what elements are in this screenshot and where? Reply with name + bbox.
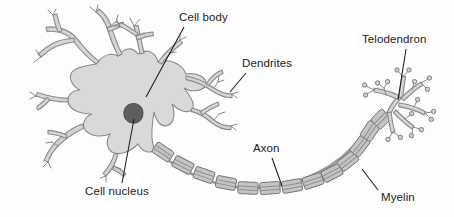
- terminal-button: [409, 133, 413, 137]
- dendrite-branch: [206, 70, 223, 85]
- terminal-button: [431, 109, 435, 113]
- terminal-button: [363, 93, 367, 97]
- label-cell-nucleus: Cell nucleus: [85, 185, 149, 197]
- terminal-button: [395, 68, 399, 72]
- telodendron-twig: [389, 132, 399, 138]
- myelin-segment: [171, 155, 194, 175]
- myelin-segment: [193, 166, 216, 184]
- soma-group: [68, 49, 206, 154]
- terminal-button: [425, 87, 429, 91]
- label-cell-body: Cell body: [179, 11, 228, 23]
- dendrite-branch: [200, 102, 219, 115]
- telodendron-branch: [374, 88, 399, 99]
- telodendron-branch: [387, 112, 395, 133]
- terminal-button: [362, 83, 366, 87]
- label-myelin: Myelin: [381, 191, 415, 203]
- terminal-button: [409, 111, 413, 115]
- neuron-diagram: .soma-fill { fill:#d9d9d9; stroke:#8a8a8…: [0, 0, 454, 217]
- dendrite-branch: [48, 130, 67, 138]
- dendrite-branch: [191, 108, 231, 130]
- terminal-button: [415, 97, 419, 101]
- label-axon: Axon: [253, 142, 280, 154]
- dendrite-branch: [36, 93, 68, 102]
- dendrite-branch: [44, 124, 84, 162]
- myelin-segment: [151, 141, 174, 162]
- soma-shape: [68, 49, 206, 154]
- terminal-button: [375, 81, 379, 85]
- dendrite-branch: [38, 38, 75, 57]
- dendrite-branch: [37, 98, 50, 110]
- terminal-button: [427, 76, 431, 80]
- label-dendrites: Dendrites: [242, 57, 292, 69]
- terminal-button: [407, 68, 411, 72]
- leader-line-myelin: [362, 169, 378, 190]
- terminal-button: [412, 79, 416, 83]
- terminal-button: [386, 137, 390, 141]
- terminal-button: [385, 79, 389, 83]
- terminal-button: [398, 135, 402, 139]
- terminal-button: [429, 117, 433, 121]
- myelin-segment: [260, 181, 281, 194]
- myelin-segment: [238, 181, 259, 194]
- dendrite-branch: [103, 153, 118, 176]
- leader-line-dendrites: [230, 73, 246, 92]
- label-telodendron: Telodendron: [362, 33, 426, 45]
- terminal-button: [419, 127, 423, 131]
